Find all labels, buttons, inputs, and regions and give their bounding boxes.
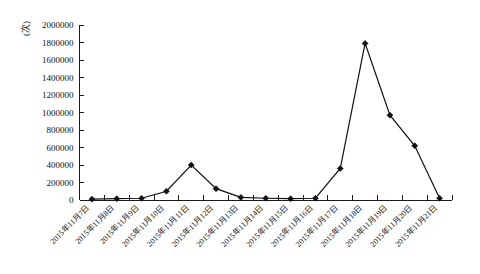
y-tick-label: 2000000 bbox=[42, 20, 74, 30]
chart-canvas: 2000000180000016000001400000120000010000… bbox=[0, 0, 480, 274]
y-tick-label: 200000 bbox=[47, 178, 75, 188]
line-chart: 2000000180000016000001400000120000010000… bbox=[0, 0, 480, 274]
x-tick-label: 2015年11月15日 bbox=[244, 202, 290, 248]
y-tick-label: 1000000 bbox=[42, 108, 74, 118]
x-tick-label: 2015年11月14日 bbox=[219, 202, 265, 248]
x-tick-label: 2015年11月10日 bbox=[119, 202, 165, 248]
y-tick-label: 600000 bbox=[47, 143, 75, 153]
y-tick-label: 1400000 bbox=[42, 73, 74, 83]
series-markers bbox=[89, 40, 443, 202]
series-line-visits bbox=[92, 43, 440, 199]
y-tick-label: 800000 bbox=[47, 125, 75, 135]
x-tick-label: 2015年11月17日 bbox=[293, 202, 339, 248]
y-axis-group: 2000000180000016000001400000120000010000… bbox=[20, 20, 84, 205]
data-point-marker bbox=[362, 40, 368, 46]
data-point-marker bbox=[89, 196, 95, 202]
series-group bbox=[89, 40, 443, 202]
x-tick-label: 2015年11月20日 bbox=[368, 202, 414, 248]
y-tick-labels: 2000000180000016000001400000120000010000… bbox=[42, 20, 74, 205]
y-axis-unit-label: (次) bbox=[20, 21, 31, 36]
x-tick-label: 2015年11月16日 bbox=[268, 202, 314, 248]
y-tick-marks bbox=[80, 25, 84, 200]
y-tick-label: 1600000 bbox=[42, 55, 74, 65]
y-tick-label: 1800000 bbox=[42, 38, 74, 48]
x-tick-label: 2015年11月13日 bbox=[194, 202, 240, 248]
x-tick-label: 2015年11月21日 bbox=[393, 202, 439, 248]
data-point-marker bbox=[238, 194, 244, 200]
x-tick-label: 2015年11月18日 bbox=[318, 202, 364, 248]
x-tick-label: 2015年11月11日 bbox=[144, 202, 190, 248]
x-tick-labels: 2015年11月7日2015年11月8日2015年11月9日2015年11月10… bbox=[48, 202, 439, 248]
y-tick-label: 400000 bbox=[47, 160, 75, 170]
x-tick-label: 2015年11月19日 bbox=[343, 202, 389, 248]
y-tick-label: 0 bbox=[69, 195, 74, 205]
x-tick-label: 2015年11月12日 bbox=[169, 202, 215, 248]
y-tick-label: 1200000 bbox=[42, 90, 74, 100]
